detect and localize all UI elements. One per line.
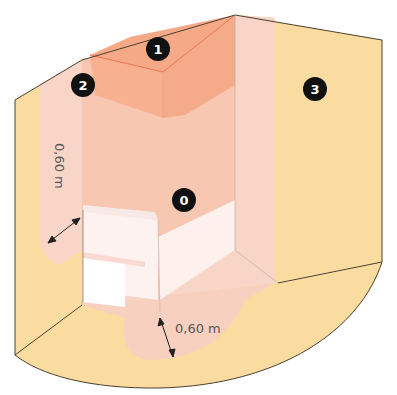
dimension-label-floor: 0,60 m [175, 321, 221, 336]
zone-badge-1: 1 [146, 37, 170, 61]
zone-badge-3: 3 [303, 77, 327, 101]
zone-badge-2: 2 [71, 73, 95, 97]
svg-text:3: 3 [310, 82, 319, 97]
svg-text:1: 1 [153, 42, 162, 57]
svg-text:2: 2 [78, 78, 87, 93]
bathroom-zones-diagram: 0,60 m 0,60 m 1 2 3 0 [0, 0, 397, 395]
svg-text:0: 0 [179, 193, 188, 208]
zone-badge-0: 0 [172, 188, 196, 212]
dimension-label-wall: 0,60 m [52, 143, 67, 189]
